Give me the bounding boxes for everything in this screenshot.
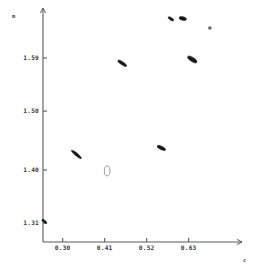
y-tick-label: 1.40: [23, 166, 39, 173]
x-tick-label: 0.41: [97, 244, 113, 251]
x-tick-label: 0.63: [181, 244, 197, 251]
x-axis-ticks: 0.300.410.520.63: [55, 238, 197, 251]
x-axis-label: c: [243, 257, 246, 263]
data-point-marker: [117, 59, 127, 67]
data-point-marker: [187, 55, 198, 64]
data-markers: [41, 16, 211, 224]
y-tick-label: 1.59: [23, 54, 39, 61]
x-tick-label: 0.52: [139, 244, 155, 251]
data-point-marker: [156, 144, 166, 151]
y-tick-label: 1.31: [23, 219, 39, 226]
data-point-marker: [104, 166, 110, 176]
y-axis-label: m: [12, 13, 16, 19]
data-point-marker: [168, 16, 175, 22]
data-point-marker: [179, 16, 187, 21]
data-point-marker: [208, 26, 211, 29]
x-tick-label: 0.30: [55, 244, 71, 251]
axes-group: [40, 8, 242, 245]
scatter-plot-figure: 0.300.410.520.63 1.311.401.501.59 m c: [0, 0, 260, 273]
y-tick-label: 1.50: [23, 107, 39, 114]
plot-canvas: 0.300.410.520.63 1.311.401.501.59 m c: [0, 0, 260, 273]
data-point-marker: [71, 149, 83, 159]
